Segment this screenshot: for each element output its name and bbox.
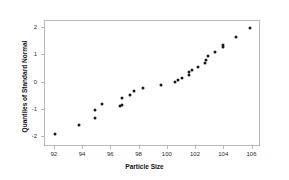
x-axis-label: Particle Size — [0, 163, 289, 170]
x-tick-label: 92 — [42, 151, 66, 157]
data-point — [196, 66, 199, 69]
data-point — [54, 132, 57, 135]
data-point — [235, 35, 238, 38]
x-tick-label: 94 — [70, 151, 94, 157]
y-tick-mark — [41, 27, 44, 28]
data-point — [133, 89, 136, 92]
data-point — [206, 55, 209, 58]
data-point — [160, 84, 163, 87]
data-point — [100, 102, 103, 105]
x-tick-mark — [82, 146, 83, 149]
data-point — [205, 58, 208, 61]
data-point — [222, 44, 225, 47]
data-point — [78, 123, 81, 126]
data-point — [213, 51, 216, 54]
y-tick-mark — [41, 109, 44, 110]
y-tick-mark — [41, 82, 44, 83]
x-tick-mark — [195, 146, 196, 149]
data-point — [174, 81, 177, 84]
x-tick-mark — [223, 146, 224, 149]
data-point — [93, 109, 96, 112]
data-point — [249, 26, 252, 29]
x-tick-mark — [54, 146, 55, 149]
data-point — [129, 94, 132, 97]
x-tick-label: 96 — [98, 151, 122, 157]
data-point — [120, 96, 123, 99]
y-axis-label: Quantiles of Standard Normal — [21, 27, 28, 147]
data-point — [203, 62, 206, 65]
data-point — [181, 77, 184, 80]
x-tick-mark — [167, 146, 168, 149]
x-tick-label: 106 — [240, 151, 264, 157]
data-point — [93, 116, 96, 119]
y-tick-mark — [41, 136, 44, 137]
x-tick-mark — [110, 146, 111, 149]
y-tick-mark — [41, 54, 44, 55]
data-point — [177, 78, 180, 81]
y-axis-label-wrap: Quantiles of Standard Normal — [0, 0, 20, 180]
data-point — [141, 87, 144, 90]
x-tick-label: 100 — [155, 151, 179, 157]
x-tick-mark — [139, 146, 140, 149]
data-point — [191, 69, 194, 72]
x-tick-label: 98 — [127, 151, 151, 157]
x-tick-label: 104 — [211, 151, 235, 157]
data-point — [120, 103, 123, 106]
qq-plot-chart: 210-1-2 92949698100102104106 Quantiles o… — [0, 0, 289, 180]
x-tick-mark — [252, 146, 253, 149]
x-tick-label: 102 — [183, 151, 207, 157]
plot-area — [44, 20, 260, 146]
